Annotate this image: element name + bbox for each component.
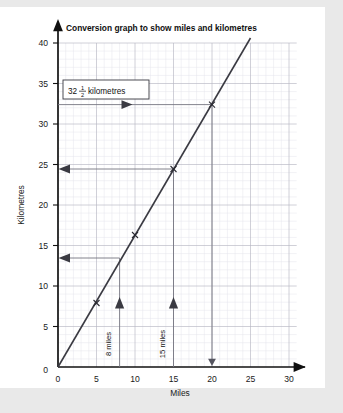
annotation-arrowhead-up-8miles [115, 297, 124, 309]
annotation-arrowhead-up-15miles [169, 297, 178, 309]
x-axis-label: Miles [170, 388, 190, 398]
y-tick-label: 35 [38, 79, 48, 89]
y-tick-label: 25 [38, 160, 48, 170]
y-tick-label: 5 [43, 322, 48, 332]
x-tick-label: 30 [284, 374, 294, 384]
km-value-fraction-denominator: 2 [81, 92, 84, 98]
screenshot-page: 40 35 30 25 20 15 10 5 0 0 5 10 15 20 25… [0, 0, 343, 413]
x-tick-label: 0 [56, 374, 61, 384]
y-tick-labels: 40 35 30 25 20 15 10 5 0 [38, 38, 48, 375]
km-value-fraction-numerator: 1 [81, 85, 84, 91]
annotation-label-8-miles: 8 miles [104, 332, 113, 356]
graph-svg: 40 35 30 25 20 15 10 5 0 0 5 10 15 20 25… [0, 0, 343, 413]
annotation-label-15-miles: 15 miles [158, 330, 167, 358]
y-tick-label: 20 [38, 200, 48, 210]
chart-title: Conversion graph to show miles and kilom… [66, 23, 257, 33]
km-value-callout: 32 1 2 kilometres [63, 80, 149, 99]
y-tick-label: 40 [38, 38, 48, 48]
y-tick-label: 0 [43, 365, 48, 375]
y-tick-label: 10 [38, 281, 48, 291]
y-axis-label: Kilometres [16, 185, 26, 225]
x-tick-label: 20 [207, 374, 217, 384]
y-tick-label: 30 [38, 119, 48, 129]
km-value-unit-label: kilometres [88, 87, 125, 96]
annotation-arrowhead-left-13km [59, 253, 71, 262]
x-tick-label: 10 [130, 374, 140, 384]
x-tick-labels: 0 5 10 15 20 25 30 [56, 374, 294, 384]
x-tick-label: 5 [94, 374, 99, 384]
x-tick-label: 25 [246, 374, 256, 384]
y-tick-label: 15 [38, 241, 48, 251]
conversion-graph-figure: 40 35 30 25 20 15 10 5 0 0 5 10 15 20 25… [0, 0, 343, 413]
km-value-whole-number: 32 [68, 87, 78, 96]
x-tick-label: 15 [169, 374, 179, 384]
annotation-arrowhead-left-24km [59, 164, 71, 173]
